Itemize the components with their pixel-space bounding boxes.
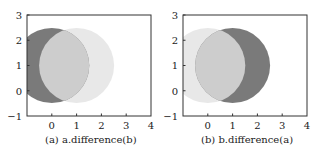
x-tick-label: 2 (254, 120, 260, 131)
y-tick-label: 1 (16, 60, 22, 71)
x-tick-label: 1 (229, 120, 235, 131)
y-tick-label: 2 (172, 35, 178, 46)
x-tick-label: 4 (148, 120, 154, 131)
caption-label: (a) (45, 134, 59, 145)
y-tick-label: −1 (7, 111, 22, 122)
caption-label: (b) (201, 134, 215, 145)
y-tick-label: 1 (172, 60, 178, 71)
panel-a: 3 2 1 0 −1 0 1 2 3 4 (a) a.difference(b) (0, 0, 160, 155)
y-tick-label: 0 (172, 86, 178, 97)
x-tick-label: 4 (304, 120, 310, 131)
x-tick-label: 2 (98, 120, 104, 131)
x-tick-label: 1 (73, 120, 79, 131)
x-tick-label: 0 (205, 120, 211, 131)
x-tick-label: 0 (49, 120, 55, 131)
caption-b: (b) b.difference(a) (201, 134, 293, 145)
overlap-region (14, 28, 89, 103)
y-tick-label: −1 (163, 111, 178, 122)
y-tick-label: 3 (16, 10, 22, 21)
chart-b: 3 2 1 0 −1 0 1 2 3 4 (156, 0, 316, 155)
caption-text: b.difference(a) (218, 134, 293, 145)
x-tick-label: 3 (279, 120, 285, 131)
caption-a: (a) a.difference(b) (45, 134, 137, 145)
x-tick-label: 3 (123, 120, 129, 131)
caption-text: a.difference(b) (62, 134, 137, 145)
y-tick-label: 2 (16, 35, 22, 46)
chart-a: 3 2 1 0 −1 0 1 2 3 4 (0, 0, 160, 155)
y-tick-label: 3 (172, 10, 178, 21)
panel-b: 3 2 1 0 −1 0 1 2 3 4 (b) b.difference(a) (156, 0, 316, 155)
y-tick-label: 0 (16, 86, 22, 97)
